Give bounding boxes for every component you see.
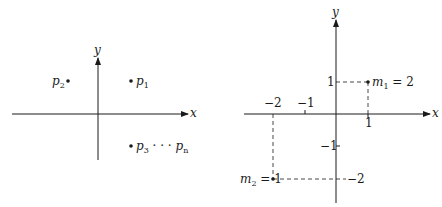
- y-tick-label-minus1: −1: [320, 140, 338, 152]
- mass-m1-dot: [366, 80, 370, 84]
- x-tick-label-minus1: −1: [297, 97, 315, 109]
- right-y-axis-label: y: [332, 6, 339, 18]
- x-tick-label-1: 1: [365, 117, 373, 129]
- point-p1-label: p1: [136, 75, 149, 92]
- y-tick-label-1: 1: [327, 76, 335, 88]
- point-p2-label: p2: [52, 75, 65, 92]
- point-p2-dot: [66, 79, 70, 83]
- x-tick-label-minus2: −2: [264, 97, 282, 109]
- mass-m1-label: m1 = 2: [372, 76, 414, 93]
- point-p3-dot: [129, 144, 133, 148]
- left-x-axis-label: x: [190, 107, 197, 119]
- left-y-axis-label: y: [94, 44, 101, 56]
- mass-m2-label: m2 = 1: [240, 173, 282, 190]
- diagram-canvas: [0, 0, 442, 207]
- point-p3-pn-label: p3 · · · pn: [136, 140, 188, 157]
- right-x-axis-label: x: [432, 107, 439, 119]
- point-p1-dot: [129, 79, 133, 83]
- y-tick-label-minus2: −2: [347, 173, 365, 185]
